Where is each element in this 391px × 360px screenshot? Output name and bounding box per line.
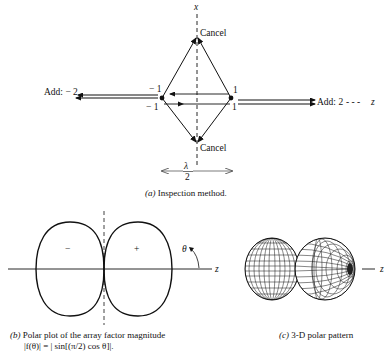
add-right-label: Add: 2 xyxy=(317,97,343,107)
antenna-array-figure: x Cancel Cancel Add: − 2 Add: 2 - - - z … xyxy=(0,0,391,360)
z-axis-label-c: z xyxy=(379,264,384,274)
theta-arc-icon xyxy=(191,249,199,268)
spacing-denominator: 2 xyxy=(185,172,190,182)
plus-sign: + xyxy=(134,244,139,254)
minus-sign: − xyxy=(65,244,70,254)
upper-right-ray xyxy=(198,38,231,98)
lower-right-ray xyxy=(198,98,231,142)
caption-b-line2: |f(θ)| = | sin[(π/2) cos θ]|. xyxy=(24,341,113,351)
caption-b-line1: (b) Polar plot of the array factor magni… xyxy=(10,330,165,340)
x-axis-label: x xyxy=(193,2,199,12)
upper-left-ray xyxy=(162,38,196,98)
theta-label: θ xyxy=(182,244,187,254)
right-dashes: - - - xyxy=(346,97,360,107)
z-axis-label-b: z xyxy=(214,264,219,274)
panel-b-polar-plot: − + θ z (b) Polar plot of the array fact… xyxy=(8,211,219,351)
spacing-lambda: λ xyxy=(183,161,188,171)
panel-c-3d-pattern: z (c) 3-D polar pattern xyxy=(240,238,384,340)
cancel-bottom-label: Cancel xyxy=(200,143,227,153)
cancel-top-label: Cancel xyxy=(200,28,227,38)
add-left-label: Add: − 2 xyxy=(44,87,78,97)
right-lower-value: 1 xyxy=(232,102,237,112)
element-left xyxy=(160,96,165,101)
z-axis-label-a: z xyxy=(370,97,375,107)
panel-a-inspection: x Cancel Cancel Add: − 2 Add: 2 - - - z … xyxy=(44,2,375,198)
left-lower-value: − 1 xyxy=(146,102,159,112)
caption-c: (c) 3-D polar pattern xyxy=(279,330,354,340)
left-upper-value: − 1 xyxy=(149,84,162,94)
right-upper-value: 1 xyxy=(233,85,238,95)
element-right xyxy=(229,96,234,101)
caption-a: (a) Inspection method. xyxy=(145,188,227,198)
